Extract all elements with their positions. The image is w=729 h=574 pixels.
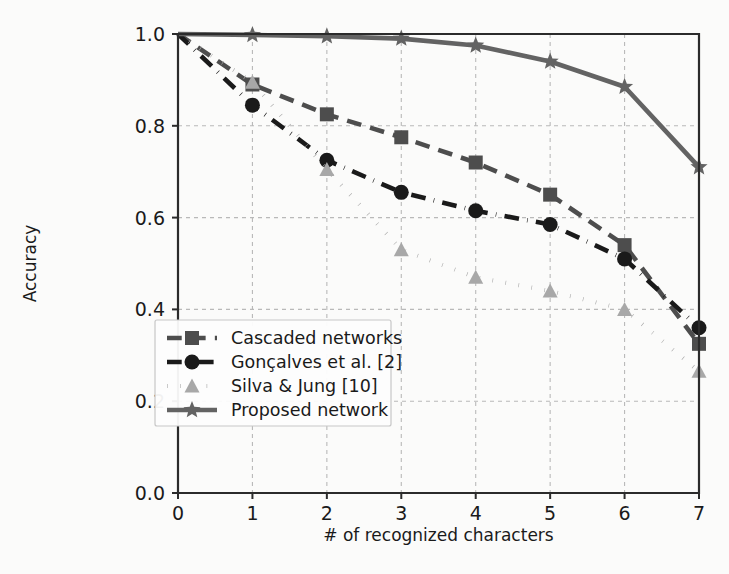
data-point-star	[318, 27, 335, 43]
data-point-square	[469, 156, 483, 170]
legend-marker	[185, 331, 199, 345]
chart-legend: Cascaded networksGonçalves et al. [2]Sil…	[155, 320, 402, 426]
data-point-square	[394, 130, 408, 144]
series-0	[178, 34, 706, 351]
y-tick-label: 0.6	[135, 207, 165, 229]
x-tick-label: 1	[246, 502, 258, 524]
y-tick-label: 1.0	[135, 23, 165, 45]
y-tick-label: 0.4	[135, 298, 165, 320]
y-tick-label: 0.8	[135, 115, 165, 137]
data-point-square	[618, 238, 632, 252]
data-point-triangle	[394, 242, 409, 256]
x-tick-label: 7	[693, 502, 705, 524]
x-tick-label: 3	[395, 502, 407, 524]
accuracy-line-chart: 012345670.00.20.40.60.81.0# of recognize…	[0, 0, 729, 574]
data-point-circle	[543, 217, 558, 232]
data-point-circle	[468, 203, 483, 218]
legend-label: Proposed network	[231, 400, 389, 420]
x-tick-label: 0	[172, 502, 184, 524]
x-tick-label: 4	[470, 502, 482, 524]
y-tick-label: 0.0	[135, 482, 165, 504]
chart-figure: 012345670.00.20.40.60.81.0# of recognize…	[0, 0, 729, 574]
data-point-circle	[394, 185, 409, 200]
data-point-triangle	[468, 270, 483, 284]
x-tick-label: 2	[321, 502, 333, 524]
legend-marker	[185, 355, 200, 370]
y-axis-title: Accuracy	[20, 225, 40, 303]
data-point-triangle	[543, 284, 558, 298]
x-axis-title: # of recognized characters	[323, 525, 554, 545]
data-point-square	[320, 107, 334, 121]
data-point-square	[543, 188, 557, 202]
legend-label: Silva & Jung [10]	[231, 376, 378, 396]
x-tick-label: 5	[544, 502, 556, 524]
legend-label: Cascaded networks	[231, 328, 402, 348]
data-point-circle	[245, 98, 260, 113]
x-tick-label: 6	[619, 502, 631, 524]
legend-label: Gonçalves et al. [2]	[231, 352, 402, 372]
axis-labels: 012345670.00.20.40.60.81.0# of recognize…	[20, 23, 705, 545]
data-point-circle	[617, 251, 632, 266]
